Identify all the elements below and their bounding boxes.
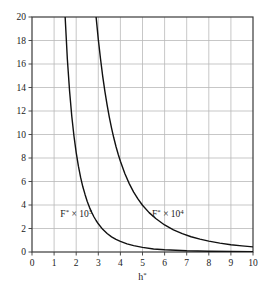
y-tick-label: 18 — [17, 36, 27, 46]
y-tick-label: 20 — [17, 12, 27, 22]
y-tick-label: 14 — [17, 83, 27, 93]
x-tick-label: 10 — [248, 258, 258, 268]
curve-2-label-text: F* × 104 — [152, 208, 184, 219]
y-tick-label: 12 — [17, 106, 27, 116]
curve-2-label: F* × 104 — [152, 208, 184, 219]
y-tick-label: 0 — [21, 247, 26, 257]
y-tick-label: 8 — [21, 153, 26, 163]
curve-1-label: F* × 103 — [60, 208, 92, 219]
chart-figure: 012345678910 02468101214161820 F* × 103F… — [0, 0, 270, 287]
curve-1-label-text: F* × 103 — [60, 208, 92, 219]
x-tick-label: 4 — [118, 258, 123, 268]
x-tick-label: 2 — [74, 258, 79, 268]
y-tick-label: 2 — [21, 224, 26, 234]
y-tick-label: 4 — [21, 200, 26, 210]
x-tick-label: 7 — [184, 258, 189, 268]
x-tick-label: 1 — [52, 258, 57, 268]
x-tick-label: 3 — [96, 258, 101, 268]
x-tick-label: 6 — [162, 258, 167, 268]
y-tick-label: 6 — [21, 177, 26, 187]
x-tick-label: 0 — [30, 258, 35, 268]
x-tick-label: 9 — [229, 258, 234, 268]
chart-canvas: 012345678910 02468101214161820 F* × 103F… — [0, 0, 270, 287]
y-tick-label: 10 — [17, 130, 27, 140]
x-tick-label: 5 — [140, 258, 145, 268]
x-tick-label: 8 — [206, 258, 211, 268]
y-tick-label: 16 — [17, 59, 27, 69]
